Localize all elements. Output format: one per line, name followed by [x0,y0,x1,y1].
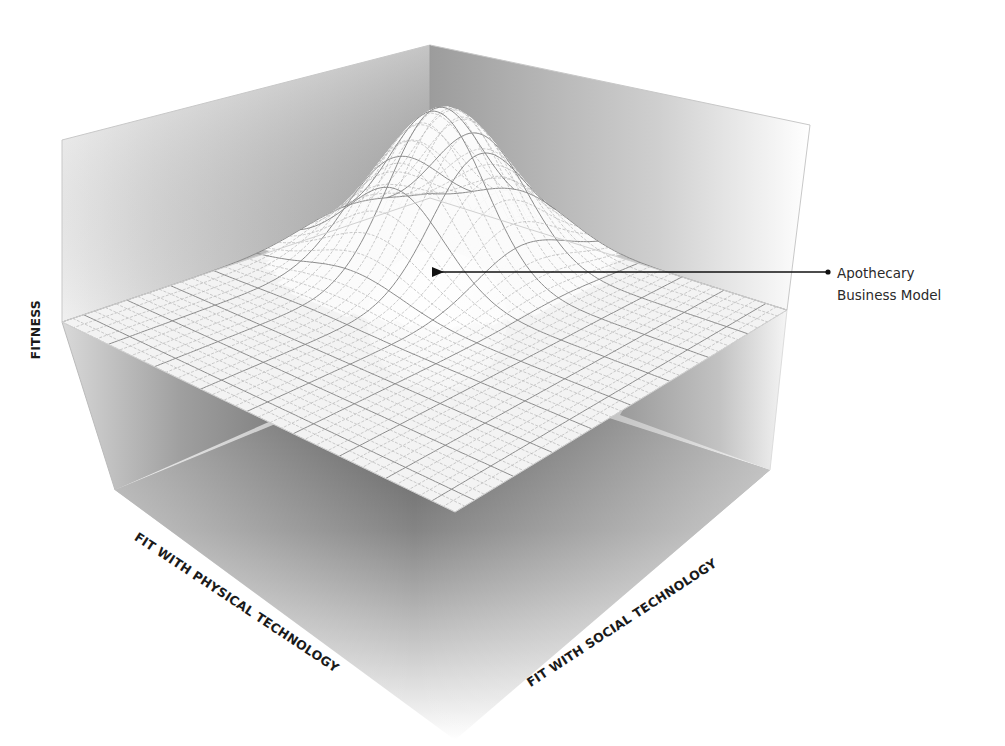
fitness-axis-label: FITNESS [28,300,43,360]
annotation-dot [825,269,830,274]
apothecary-annotation: Apothecary Business Model [837,262,941,306]
landscape-svg [0,0,1005,746]
annotation-line-1: Apothecary [837,262,941,284]
annotation-line-2: Business Model [837,284,941,306]
fitness-landscape-diagram: FITNESS FIT WITH PHYSICAL TECHNOLOGY FIT… [0,0,1005,746]
